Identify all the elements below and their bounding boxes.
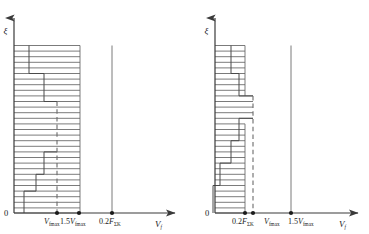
right-panel-tick-label-vfmax: Vfmax (264, 217, 280, 227)
left-panel-tick-label-1p5vfmax: 1.5Vfmax (60, 217, 86, 227)
left-panel-tick-label-02fsk: 0.2FΣK (99, 217, 121, 227)
right-panel-origin-label: 0 (205, 208, 209, 218)
right-panel-y-axis-label: ξ (205, 26, 209, 36)
left-panel-y-axis-label: ξ (4, 26, 8, 36)
right-panel-tick-dot-vfmax (251, 211, 255, 215)
left-panel-origin-label: 0 (4, 208, 8, 218)
figure-container: 0 ξ Vfmax 1.5Vfmax 0.2FΣK Vf (0, 0, 369, 234)
left-panel-bars (14, 46, 80, 214)
right-panel-tick-label-1p5vfmax: 1.5Vfmax (288, 217, 314, 227)
right-panel-tick-label-02fsk: 0.2FΣK (232, 217, 254, 227)
right-panel-tick-dot-1p5vfmax (289, 211, 293, 215)
left-panel-tick-dot-02fsk (110, 211, 114, 215)
left-panel-tick-dot-vfmax (55, 211, 59, 215)
left-panel: 0 ξ Vfmax 1.5Vfmax 0.2FΣK Vf (4, 18, 176, 230)
left-panel-x-axis-label: Vf (155, 219, 164, 230)
right-panel: 0 ξ 0.2FΣK Vfmax 1.5Vfmax Vf (205, 18, 359, 230)
left-panel-tick-label-vfmax: Vfmax (44, 217, 60, 227)
right-panel-bars (215, 46, 253, 214)
right-panel-x-axis-label: Vf (339, 219, 348, 230)
right-panel-tick-dot-02fsk (243, 211, 247, 215)
left-panel-tick-dot-1p5vfmax (77, 211, 81, 215)
two-panel-diagram-svg: 0 ξ Vfmax 1.5Vfmax 0.2FΣK Vf (0, 0, 369, 234)
